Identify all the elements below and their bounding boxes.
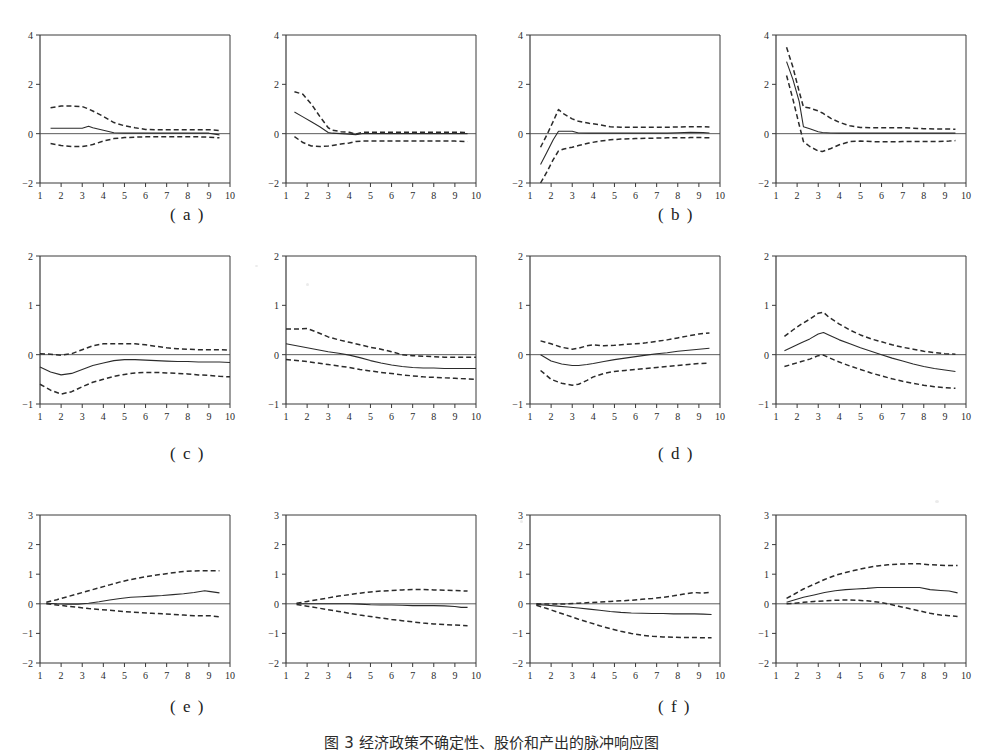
svg-text:10: 10 xyxy=(471,190,481,201)
svg-text:−1: −1 xyxy=(22,399,33,410)
svg-text:3: 3 xyxy=(816,190,821,201)
svg-text:−2: −2 xyxy=(758,178,769,189)
series-lower xyxy=(294,137,467,147)
svg-text:6: 6 xyxy=(633,411,638,422)
svg-text:7: 7 xyxy=(164,190,169,201)
svg-text:3: 3 xyxy=(80,411,85,422)
svg-text:6: 6 xyxy=(389,190,394,201)
svg-text:9: 9 xyxy=(696,411,701,422)
svg-text:10: 10 xyxy=(961,190,971,201)
svg-text:9: 9 xyxy=(206,670,211,681)
plot-frame xyxy=(40,515,230,663)
series-response xyxy=(541,348,710,365)
svg-text:8: 8 xyxy=(921,670,926,681)
svg-text:2: 2 xyxy=(549,670,554,681)
svg-text:7: 7 xyxy=(164,411,169,422)
svg-text:3: 3 xyxy=(28,510,33,521)
svg-text:2: 2 xyxy=(305,190,310,201)
svg-text:3: 3 xyxy=(570,411,575,422)
svg-text:2: 2 xyxy=(795,411,800,422)
series-lower xyxy=(51,137,220,147)
svg-text:−2: −2 xyxy=(512,178,523,189)
svg-text:0: 0 xyxy=(764,129,769,140)
svg-text:2: 2 xyxy=(518,251,523,262)
svg-text:4: 4 xyxy=(837,411,842,422)
scan-speck xyxy=(255,265,258,267)
svg-text:2: 2 xyxy=(274,251,279,262)
svg-text:1: 1 xyxy=(28,300,33,311)
scan-speck xyxy=(306,283,309,286)
plot-frame xyxy=(530,515,720,663)
svg-text:9: 9 xyxy=(942,190,947,201)
scan-speck xyxy=(520,520,523,523)
series-lower xyxy=(46,604,219,617)
svg-text:−1: −1 xyxy=(22,628,33,639)
irf-plot-a2: −202412345678910 xyxy=(248,19,484,219)
svg-text:5: 5 xyxy=(858,411,863,422)
series-upper xyxy=(541,109,710,147)
svg-text:8: 8 xyxy=(431,670,436,681)
plot-frame xyxy=(40,35,230,183)
svg-text:10: 10 xyxy=(225,670,235,681)
svg-text:4: 4 xyxy=(591,190,596,201)
svg-text:2: 2 xyxy=(764,540,769,551)
svg-text:3: 3 xyxy=(570,190,575,201)
svg-text:3: 3 xyxy=(80,190,85,201)
svg-text:9: 9 xyxy=(452,670,457,681)
plot-frame xyxy=(530,256,720,404)
svg-text:5: 5 xyxy=(612,670,617,681)
svg-text:5: 5 xyxy=(612,190,617,201)
svg-text:2: 2 xyxy=(59,411,64,422)
svg-text:3: 3 xyxy=(570,670,575,681)
svg-text:8: 8 xyxy=(185,190,190,201)
series-upper xyxy=(40,344,230,355)
svg-text:7: 7 xyxy=(410,411,415,422)
svg-text:2: 2 xyxy=(518,540,523,551)
irf-plot-c2: −101212345678910 xyxy=(248,240,484,440)
svg-text:6: 6 xyxy=(633,670,638,681)
svg-text:9: 9 xyxy=(206,190,211,201)
svg-text:−2: −2 xyxy=(268,658,279,669)
svg-text:8: 8 xyxy=(921,190,926,201)
svg-text:10: 10 xyxy=(225,411,235,422)
svg-text:10: 10 xyxy=(225,190,235,201)
panel-group-label-f: ( f ) xyxy=(658,697,691,717)
series-response xyxy=(46,591,219,604)
svg-text:6: 6 xyxy=(143,411,148,422)
svg-text:4: 4 xyxy=(764,30,769,41)
svg-text:2: 2 xyxy=(274,540,279,551)
svg-text:5: 5 xyxy=(858,190,863,201)
svg-text:6: 6 xyxy=(879,411,884,422)
svg-text:4: 4 xyxy=(101,190,106,201)
svg-text:2: 2 xyxy=(549,190,554,201)
svg-text:1: 1 xyxy=(38,411,43,422)
svg-text:0: 0 xyxy=(28,599,33,610)
irf-plot-a1: −202412345678910 xyxy=(2,19,238,219)
svg-text:0: 0 xyxy=(28,129,33,140)
svg-text:3: 3 xyxy=(80,670,85,681)
svg-text:2: 2 xyxy=(28,540,33,551)
figure-caption: 图 3 经济政策不确定性、股价和产出的脉冲响应图 xyxy=(0,731,983,752)
svg-text:4: 4 xyxy=(591,411,596,422)
plot-frame xyxy=(776,35,966,183)
series-response xyxy=(294,112,467,135)
svg-text:8: 8 xyxy=(185,411,190,422)
irf-plot-c1: −101212345678910 xyxy=(2,240,238,440)
svg-text:6: 6 xyxy=(143,670,148,681)
panel-group-label-a: ( a ) xyxy=(170,205,205,225)
svg-text:0: 0 xyxy=(518,350,523,361)
svg-text:4: 4 xyxy=(837,190,842,201)
svg-text:0: 0 xyxy=(764,350,769,361)
series-lower xyxy=(541,363,710,385)
svg-text:2: 2 xyxy=(764,251,769,262)
svg-text:10: 10 xyxy=(961,411,971,422)
svg-text:0: 0 xyxy=(764,599,769,610)
irf-plot-e1: −2−1012312345678910 xyxy=(2,499,238,699)
svg-text:6: 6 xyxy=(633,190,638,201)
svg-text:−1: −1 xyxy=(268,628,279,639)
svg-text:5: 5 xyxy=(122,670,127,681)
series-lower xyxy=(787,75,956,151)
series-upper xyxy=(297,590,468,604)
series-upper xyxy=(286,329,476,358)
svg-text:7: 7 xyxy=(164,670,169,681)
